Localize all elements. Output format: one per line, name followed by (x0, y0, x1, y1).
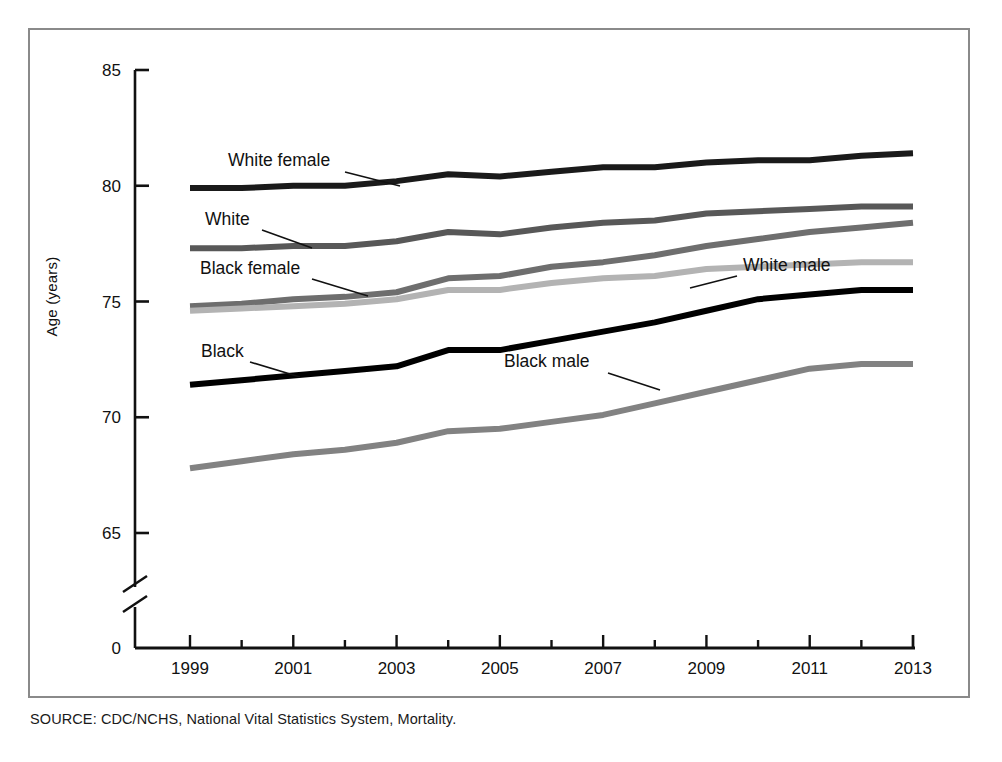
y-tick-label: 65 (102, 524, 121, 543)
leader-line (312, 279, 368, 296)
series-line-black-male (190, 364, 913, 468)
series-annotation-black-female: Black female (200, 258, 300, 278)
y-tick-label: 80 (102, 177, 121, 196)
x-tick-label: 2011 (791, 659, 828, 678)
series-annotation-white: White (205, 209, 250, 229)
x-tick-label: 2005 (481, 659, 519, 678)
leader-line (690, 276, 737, 288)
y-tick-label: 85 (102, 61, 121, 80)
x-tick-label: 2013 (894, 659, 932, 678)
y-tick-label-zero: 0 (112, 639, 121, 658)
y-tick-label: 70 (102, 408, 121, 427)
series-annotation-white-female: White female (228, 150, 330, 170)
x-tick-label: 2001 (274, 659, 312, 678)
x-tick-label: 2003 (378, 659, 416, 678)
series-line-white (190, 207, 913, 249)
line-chart-canvas: 6570758085019992001200320052007200920112… (0, 0, 1002, 700)
source-note: SOURCE: CDC/NCHS, National Vital Statist… (30, 711, 456, 727)
life-expectancy-figure: Age (years) 6570758085019992001200320052… (0, 0, 1002, 762)
x-tick-label: 2007 (584, 659, 622, 678)
series-annotation-black: Black (201, 341, 244, 361)
series-annotation-black-male: Black male (504, 351, 590, 371)
x-tick-label: 2009 (688, 659, 726, 678)
series-annotation-white-male: White male (743, 255, 831, 275)
series-group (190, 153, 913, 468)
y-tick-label: 75 (102, 293, 121, 312)
x-tick-label: 1999 (171, 659, 209, 678)
leader-line (608, 373, 660, 390)
